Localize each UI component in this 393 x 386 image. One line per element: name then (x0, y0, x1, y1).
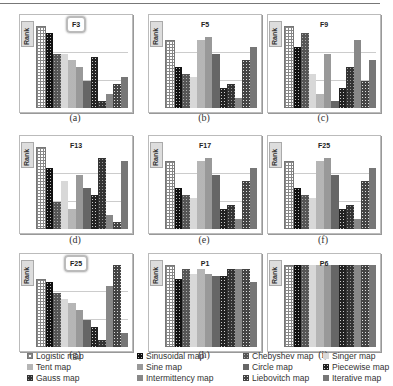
bar (106, 94, 114, 108)
bar (242, 60, 250, 108)
bar (205, 274, 213, 347)
bar (309, 74, 317, 108)
bar (339, 265, 347, 347)
bar (227, 205, 235, 229)
legend-item: Gauss map (27, 373, 137, 383)
bar (324, 265, 332, 347)
bar (354, 40, 362, 108)
bar (53, 293, 61, 347)
chart-title: F17 (149, 142, 261, 149)
y-axis-label-text: Rank (152, 149, 159, 166)
bar (339, 209, 347, 229)
bar (369, 168, 377, 229)
chart-title-text: F25 (318, 142, 330, 149)
bar (68, 303, 76, 347)
legend-label: Logistic map (36, 351, 84, 361)
bar (46, 282, 54, 347)
legend-label: Sinusoidal map (146, 351, 204, 361)
legend-swatch-icon (137, 353, 143, 359)
bar (220, 88, 228, 108)
chart-panel-f: RankF25 (267, 135, 381, 234)
plot-area (284, 144, 376, 229)
bar (91, 57, 99, 108)
bar (316, 161, 324, 229)
bar (242, 181, 250, 229)
chart-title: F25 (20, 260, 132, 267)
bar (284, 161, 294, 229)
bar (294, 265, 302, 347)
plot-area (284, 262, 376, 347)
bar (76, 67, 84, 108)
bar (61, 299, 69, 347)
bar (190, 274, 198, 347)
y-axis-label-text: Rank (271, 28, 278, 45)
panel-caption: (e) (148, 234, 260, 245)
chart-title-text: P6 (320, 260, 329, 267)
chart-title: F5 (149, 21, 261, 28)
bar (227, 269, 235, 347)
bar (361, 181, 369, 229)
chart-panel-a: RankF3 (19, 14, 133, 113)
chart-title-text: F3 (66, 16, 86, 33)
legend-label: Liebovitch map (252, 373, 309, 383)
plot-area (36, 262, 128, 347)
bar (91, 327, 99, 347)
bar (68, 60, 76, 108)
panel-caption: (f) (267, 234, 379, 245)
bar (165, 161, 175, 229)
bar (205, 37, 213, 108)
bar (250, 168, 258, 229)
bar (294, 188, 302, 229)
bar (346, 205, 354, 229)
plot-area (36, 23, 128, 108)
bar (220, 209, 228, 229)
legend-item: Sine map (137, 362, 243, 372)
legend-swatch-icon (323, 353, 329, 359)
legend-swatch-icon (137, 375, 143, 381)
bar (61, 181, 69, 229)
bar (165, 40, 175, 108)
bar (250, 282, 258, 347)
legend-item: Intermittency map (137, 373, 243, 383)
bar (346, 265, 354, 347)
bar (235, 98, 243, 108)
y-axis-label-text: Rank (271, 267, 278, 284)
bar (324, 54, 332, 108)
legend-swatch-icon (27, 364, 33, 370)
bar (235, 219, 243, 229)
bar (36, 147, 46, 229)
bar (301, 265, 309, 347)
bar (301, 33, 309, 108)
bar (76, 310, 84, 347)
bar (61, 54, 69, 108)
panel-caption: (b) (148, 112, 260, 123)
y-axis-label-text: Rank (152, 267, 159, 284)
chart-title: F13 (20, 142, 132, 149)
legend-item: Singer map (323, 351, 393, 361)
chart-title-text: F9 (320, 21, 328, 28)
plot-area (284, 23, 376, 108)
bar (113, 222, 121, 229)
bar (190, 77, 198, 108)
panel-caption: (c) (267, 112, 379, 123)
plot-area (165, 262, 257, 347)
bar (324, 158, 332, 229)
bar (220, 276, 228, 347)
legend-item: Circle map (243, 362, 323, 372)
bar (121, 77, 129, 108)
plot-area (165, 144, 257, 229)
bar (197, 161, 205, 229)
bar (212, 175, 220, 229)
bar (83, 81, 91, 108)
top-rule (0, 3, 380, 4)
bar (354, 219, 362, 229)
bar (197, 269, 205, 347)
bar (83, 320, 91, 347)
bar (175, 67, 183, 108)
legend-swatch-icon (323, 364, 329, 370)
chart-title: F9 (268, 21, 380, 28)
chart-title: P1 (149, 260, 261, 267)
chart-title: F3 (20, 21, 132, 28)
bar (197, 40, 205, 108)
legend-item: Piecewise map (323, 362, 393, 372)
